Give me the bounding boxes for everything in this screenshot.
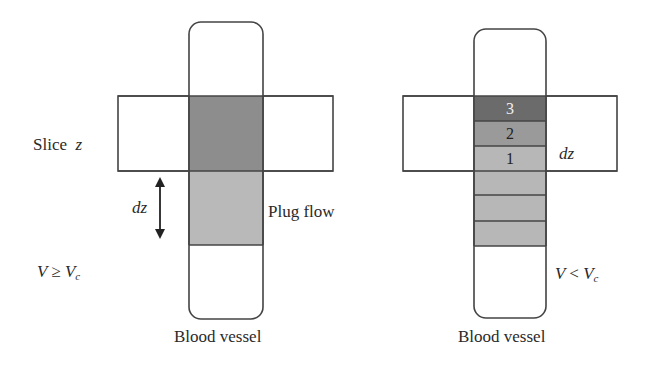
critical-velocity-symbol: V [583, 264, 593, 283]
band-2-label: 2 [474, 126, 546, 142]
left-panel [118, 22, 333, 319]
band-lower-1 [475, 171, 545, 195]
left-plug-flow-region [190, 171, 262, 245]
operator-symbol: ≥ [51, 262, 60, 281]
left-velocity-condition: V ≥ Vc [37, 263, 80, 282]
band-3-label: 3 [474, 101, 546, 117]
subscript: c [75, 270, 80, 282]
right-dz-label: dz [559, 145, 574, 162]
critical-velocity-symbol: V [65, 262, 75, 281]
operator-symbol: < [569, 264, 579, 283]
diagram-canvas [0, 0, 657, 376]
left-dz-label: dz [132, 199, 147, 216]
dz-arrow-icon [155, 177, 165, 239]
band-lower-2 [475, 195, 545, 221]
subscript: c [594, 272, 599, 284]
slice-variable: z [76, 135, 83, 154]
band-1-label: 1 [474, 151, 546, 167]
slice-text: Slice [33, 135, 67, 154]
slice-label: Slice z [33, 136, 82, 153]
left-vessel-label: Blood vessel [174, 328, 261, 345]
velocity-symbol: V [555, 264, 565, 283]
velocity-symbol: V [37, 262, 47, 281]
right-vessel-label: Blood vessel [458, 328, 545, 345]
band-lower-3 [475, 221, 545, 246]
right-velocity-condition: V < Vc [555, 265, 598, 284]
plug-flow-label: Plug flow [268, 203, 335, 220]
left-slice-region [190, 96, 262, 171]
